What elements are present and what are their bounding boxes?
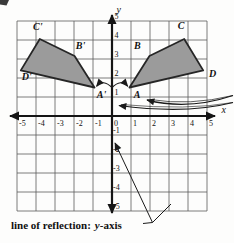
- scan-artifact: [0, 0, 9, 6]
- x-tick-label: 5: [209, 119, 213, 128]
- callout-line-y-axis: [115, 143, 153, 223]
- x-tick-label: 4: [190, 119, 194, 128]
- vertex-label-B: B: [133, 40, 141, 51]
- x-tick-label: 2: [152, 119, 156, 128]
- x-tick-label: 1: [133, 119, 137, 128]
- coordinate-grid-figure: x y -5-4-3-2-101234554321-1-2-3-4-5 ABCD…: [0, 0, 234, 243]
- x-tick-label: -5: [19, 119, 26, 128]
- y-tick-label: 3: [115, 50, 119, 59]
- y-tick-label: -5: [113, 202, 120, 211]
- vertex-label-A: A: [133, 89, 141, 100]
- vertex-label-A': A': [96, 89, 107, 100]
- caption: line of reflection:y-axis: [11, 219, 122, 231]
- y-tick-label: 2: [115, 69, 119, 78]
- caption-term-rest: -axis: [100, 219, 123, 231]
- x-tick-label: 3: [171, 119, 175, 128]
- vertex-label-C: C: [178, 20, 185, 31]
- vertex-label-D: D: [208, 68, 216, 79]
- y-tick-label: -3: [113, 164, 120, 173]
- y-tick-label: 1: [115, 88, 119, 97]
- reflection-arc-right: [112, 83, 128, 88]
- x-tick-label: -1: [95, 119, 102, 128]
- callout-dash: [143, 223, 153, 224]
- x-tick-label: -4: [38, 119, 45, 128]
- y-tick-label: -1: [113, 126, 120, 135]
- x-tick-label: -3: [57, 119, 64, 128]
- vertex-label-D': D': [21, 71, 32, 82]
- reflection-arc-left: [97, 83, 113, 88]
- figure-container: x y -5-4-3-2-101234554321-1-2-3-4-5 ABCD…: [0, 0, 234, 243]
- callout-line-secondary: [153, 204, 172, 223]
- y-tick-label: -4: [113, 183, 120, 192]
- vertex-label-C': C': [33, 21, 43, 32]
- x-tick-label: -2: [76, 119, 83, 128]
- y-tick-label: 4: [115, 31, 119, 40]
- y-tick-label: 5: [115, 12, 119, 21]
- vertex-label-B': B': [75, 40, 86, 51]
- caption-prefix: line of reflection:: [11, 219, 91, 231]
